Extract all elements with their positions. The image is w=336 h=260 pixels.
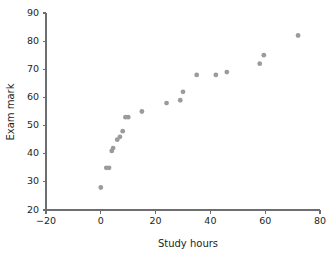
y-tick-label: 50 — [27, 119, 39, 130]
ticks-group — [43, 13, 321, 214]
plot-svg: 2030405060708090−20020406080 Study hours… — [0, 0, 336, 260]
y-tick-label: 90 — [27, 7, 39, 18]
data-point — [111, 146, 116, 151]
data-point — [224, 70, 229, 75]
y-tick-label: 80 — [27, 35, 39, 46]
y-tick-label: 20 — [27, 204, 39, 215]
data-point — [98, 185, 103, 190]
data-point — [213, 73, 218, 78]
data-point — [194, 73, 199, 78]
data-point — [257, 61, 262, 66]
axes-group — [46, 13, 320, 210]
x-tick-label: 20 — [150, 215, 162, 226]
x-tick-label: 80 — [314, 215, 326, 226]
data-point — [296, 33, 301, 38]
x-axis-title: Study hours — [158, 238, 218, 249]
data-points-group — [98, 33, 300, 190]
x-tick-label: 40 — [204, 215, 216, 226]
data-point — [118, 134, 123, 139]
data-point — [178, 98, 183, 103]
y-tick-label: 40 — [27, 147, 39, 158]
data-point — [181, 89, 186, 94]
x-tick-label: −20 — [36, 215, 56, 226]
data-point — [126, 115, 131, 120]
data-point — [107, 165, 112, 170]
scatter-plot-figure: 2030405060708090−20020406080 Study hours… — [0, 0, 336, 260]
data-point — [140, 109, 145, 114]
x-tick-label: 0 — [98, 215, 104, 226]
y-tick-label: 30 — [27, 175, 39, 186]
data-point — [261, 53, 266, 58]
data-point — [164, 101, 169, 106]
x-tick-label: 60 — [259, 215, 271, 226]
data-point — [120, 129, 125, 134]
y-tick-label: 70 — [27, 63, 39, 74]
tick-labels-group: 2030405060708090−20020406080 — [27, 7, 326, 227]
y-tick-label: 60 — [27, 91, 39, 102]
y-axis-title: Exam mark — [5, 83, 16, 140]
